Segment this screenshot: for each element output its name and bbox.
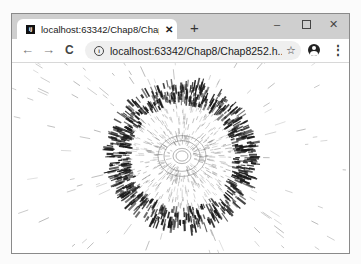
tab-close-icon[interactable]: ✕: [165, 24, 173, 35]
new-tab-button[interactable]: +: [190, 20, 199, 36]
tab-strip: IJ localhost:63342/Chap8/ChapE ✕ + – ✕: [12, 14, 349, 39]
maximize-button[interactable]: [302, 17, 311, 32]
maximize-icon: [302, 20, 311, 29]
active-tab[interactable]: IJ localhost:63342/Chap8/ChapE ✕: [17, 19, 177, 40]
close-window-button[interactable]: ✕: [329, 17, 338, 31]
browser-menu-icon[interactable]: ⋮: [332, 43, 344, 57]
browser-window: IJ localhost:63342/Chap8/ChapE ✕ + – ✕ ←…: [11, 13, 350, 254]
browser-toolbar: ← → C i localhost:63342/Chap8/Chap8252.h…: [12, 39, 349, 63]
tab-title: localhost:63342/Chap8/ChapE: [41, 24, 159, 35]
profile-avatar-icon[interactable]: [308, 44, 320, 56]
bookmark-star-icon[interactable]: ☆: [286, 44, 296, 57]
site-info-icon[interactable]: i: [94, 46, 104, 56]
page-content: [12, 63, 349, 253]
address-bar[interactable]: i localhost:63342/Chap8/Chap8252.h... ☆: [85, 41, 301, 60]
radial-burst-canvas: [12, 63, 349, 253]
minimize-button[interactable]: –: [274, 17, 280, 31]
intellij-favicon-icon: IJ: [26, 25, 35, 34]
reload-button[interactable]: C: [65, 42, 74, 58]
back-button[interactable]: ←: [21, 42, 34, 58]
url-text[interactable]: localhost:63342/Chap8/Chap8252.h...: [110, 45, 282, 57]
forward-button[interactable]: →: [42, 42, 55, 58]
